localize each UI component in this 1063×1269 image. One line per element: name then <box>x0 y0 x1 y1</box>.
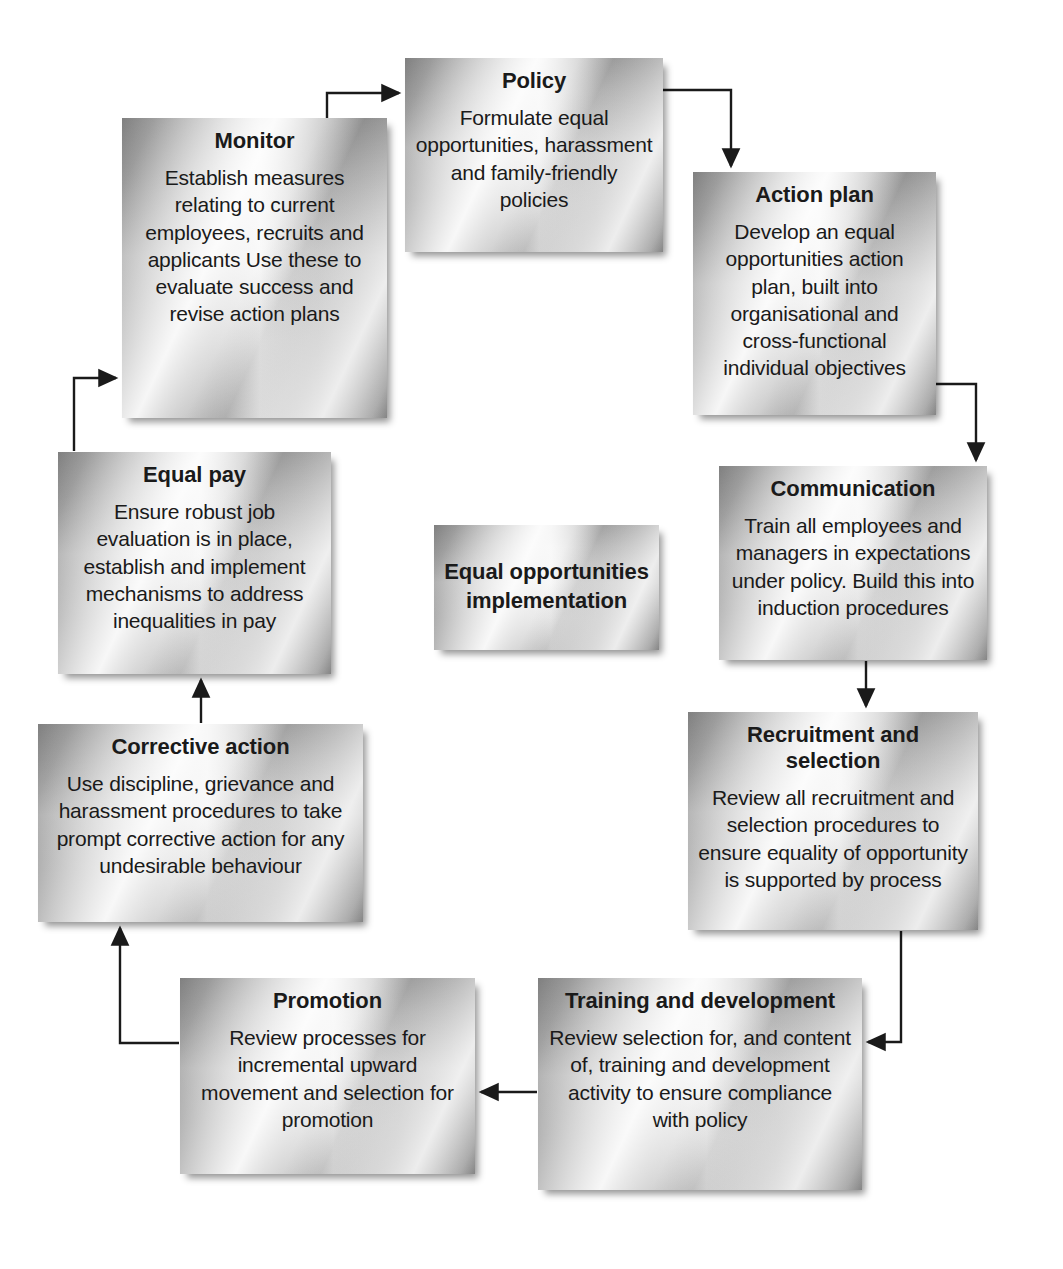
node-recruitment-and-selection[interactable]: Recruitment and selection Review all rec… <box>688 712 978 930</box>
node-policy[interactable]: Policy Formulate equal opportunities, ha… <box>405 58 663 252</box>
node-corrective-action[interactable]: Corrective action Use discipline, grieva… <box>38 724 363 922</box>
edge-recruitment-to-training <box>868 931 901 1042</box>
edge-policy-to-action-plan <box>663 90 731 166</box>
node-recruitment-and-selection-title: Recruitment and selection <box>698 722 968 774</box>
node-communication[interactable]: Communication Train all employees and ma… <box>719 466 987 660</box>
diagram-canvas: Monitor Establish measures relating to c… <box>0 0 1063 1269</box>
node-equal-pay[interactable]: Equal pay Ensure robust job evaluation i… <box>58 452 331 674</box>
node-policy-body: Formulate equal opportunities, harassmen… <box>415 104 653 213</box>
node-action-plan[interactable]: Action plan Develop an equal opportuniti… <box>693 172 936 415</box>
node-promotion-title: Promotion <box>190 988 465 1014</box>
node-promotion[interactable]: Promotion Review processes for increment… <box>180 978 475 1174</box>
node-communication-title: Communication <box>729 476 977 502</box>
node-policy-title: Policy <box>415 68 653 94</box>
edge-equal-pay-to-monitor <box>74 378 116 451</box>
node-equal-pay-body: Ensure robust job evaluation is in place… <box>68 498 321 634</box>
node-training-and-development[interactable]: Training and development Review selectio… <box>538 978 862 1190</box>
node-corrective-action-title: Corrective action <box>48 734 353 760</box>
node-equal-pay-title: Equal pay <box>68 462 321 488</box>
node-monitor-title: Monitor <box>132 128 377 154</box>
node-training-and-development-body: Review selection for, and content of, tr… <box>548 1024 852 1133</box>
edge-promotion-to-corrective-action <box>120 928 179 1043</box>
node-action-plan-body: Develop an equal opportunities action pl… <box>703 218 926 382</box>
node-monitor[interactable]: Monitor Establish measures relating to c… <box>122 118 387 418</box>
node-recruitment-and-selection-body: Review all recruitment and selection pro… <box>698 784 968 893</box>
node-monitor-body: Establish measures relating to current e… <box>132 164 377 328</box>
diagram-center-label: Equal opportunities implementation <box>434 525 659 650</box>
node-training-and-development-title: Training and development <box>548 988 852 1014</box>
node-action-plan-title: Action plan <box>703 182 926 208</box>
diagram-center-label-text: Equal opportunities implementation <box>444 558 649 615</box>
node-promotion-body: Review processes for incremental upward … <box>190 1024 465 1133</box>
node-corrective-action-body: Use discipline, grievance and harassment… <box>48 770 353 879</box>
edge-action-plan-to-communication <box>936 384 976 460</box>
node-communication-body: Train all employees and managers in expe… <box>729 512 977 621</box>
